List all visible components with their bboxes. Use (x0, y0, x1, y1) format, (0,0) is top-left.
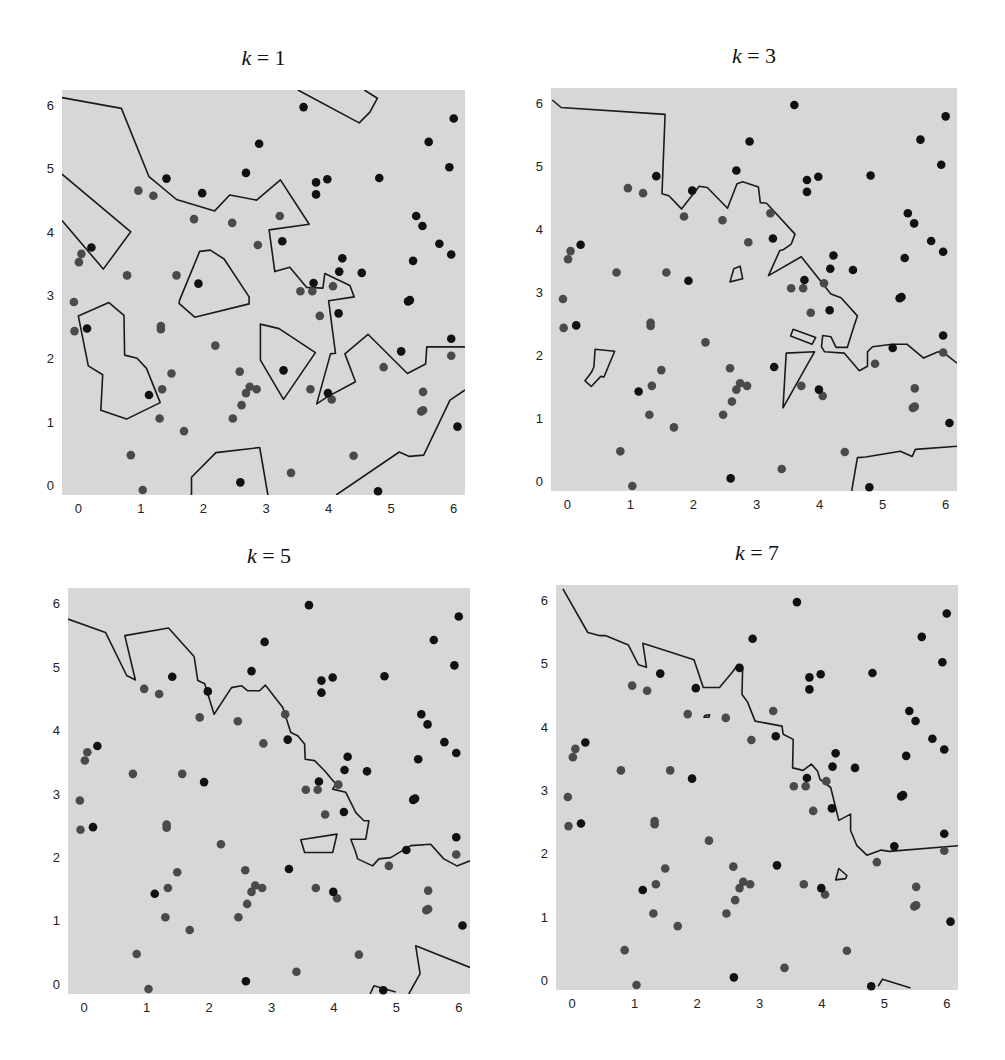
x-tick-label: 4 (325, 501, 332, 516)
point-class-b (241, 866, 250, 875)
point-class-a (576, 240, 585, 249)
point-class-b (801, 782, 810, 791)
point-class-b (559, 295, 568, 304)
point-class-a (317, 676, 326, 685)
point-class-b (385, 862, 394, 871)
point-class-b (912, 883, 921, 892)
y-tick-label: 3 (536, 285, 543, 300)
x-tick-label: 5 (388, 501, 395, 516)
point-class-b (670, 423, 679, 432)
point-class-b (912, 901, 921, 910)
point-class-a (868, 669, 877, 678)
point-class-b (646, 322, 655, 331)
point-class-a (688, 186, 697, 195)
point-class-b (172, 271, 181, 280)
point-class-b (424, 886, 433, 895)
point-class-b (173, 868, 182, 877)
point-class-b (871, 360, 880, 369)
point-class-a (312, 178, 321, 187)
y-tick-label: 4 (47, 225, 54, 240)
point-class-a (905, 707, 914, 716)
point-class-b (939, 348, 948, 357)
point-class-b (769, 707, 778, 716)
point-class-a (815, 385, 824, 394)
point-class-a (900, 254, 909, 263)
point-class-b (746, 880, 755, 889)
x-tick-label: 0 (81, 1000, 88, 1015)
point-class-b (639, 189, 648, 198)
x-tick-label: 0 (75, 501, 82, 516)
point-class-a (168, 673, 177, 682)
x-tick-label: 1 (631, 996, 638, 1011)
plot-area: 01234560123456 (28, 543, 510, 1029)
point-class-a (397, 347, 406, 356)
x-tick-label: 6 (943, 996, 950, 1011)
point-class-a (329, 888, 338, 897)
point-class-a (826, 264, 835, 273)
point-class-b (76, 825, 85, 834)
point-class-b (195, 713, 204, 722)
point-class-b (157, 325, 166, 334)
point-class-b (258, 884, 267, 893)
point-class-b (777, 465, 786, 474)
point-class-b (237, 401, 246, 410)
point-class-b (259, 739, 268, 748)
point-class-a (340, 808, 349, 817)
point-class-b (718, 216, 727, 225)
y-tick-label: 6 (53, 596, 60, 611)
point-class-a (440, 738, 449, 747)
point-class-a (380, 672, 389, 681)
point-class-b (308, 287, 317, 296)
point-class-a (315, 777, 324, 786)
point-class-b (287, 469, 296, 478)
point-class-b (355, 950, 364, 959)
point-class-a (93, 742, 102, 751)
point-class-a (411, 794, 420, 803)
point-class-a (363, 767, 372, 776)
x-tick-label: 3 (756, 996, 763, 1011)
y-tick-label: 4 (541, 720, 548, 735)
point-class-a (406, 296, 415, 305)
point-class-a (770, 363, 779, 372)
point-class-b (76, 796, 85, 805)
point-class-b (185, 926, 194, 935)
x-tick-label: 5 (881, 996, 888, 1011)
point-class-a (938, 658, 947, 667)
point-class-a (656, 669, 665, 678)
x-tick-label: 2 (200, 501, 207, 516)
point-class-a (828, 762, 837, 771)
point-class-b (680, 212, 689, 221)
point-class-a (916, 135, 925, 144)
point-class-a (890, 842, 899, 851)
point-class-a (423, 720, 432, 729)
x-tick-label: 4 (816, 497, 823, 512)
point-class-b (649, 909, 658, 918)
point-class-b (673, 922, 682, 931)
point-class-b (652, 880, 661, 889)
x-tick-label: 0 (569, 996, 576, 1011)
point-class-b (910, 402, 919, 411)
point-class-b (75, 258, 84, 267)
point-class-b (666, 766, 675, 775)
point-class-b (247, 888, 256, 897)
point-class-a (162, 174, 171, 183)
x-tick-label: 5 (393, 1000, 400, 1015)
x-tick-label: 0 (564, 497, 571, 512)
point-class-b (81, 756, 90, 765)
point-class-a (194, 279, 203, 288)
point-class-a (87, 243, 96, 252)
point-class-b (732, 385, 741, 394)
point-class-b (721, 714, 730, 723)
point-class-b (329, 282, 338, 291)
point-class-a (805, 673, 814, 682)
point-class-b (149, 191, 158, 200)
point-class-a (748, 634, 757, 643)
point-class-b (161, 913, 170, 922)
y-tick-label: 0 (541, 973, 548, 988)
x-tick-label: 1 (137, 501, 144, 516)
point-class-a (634, 387, 643, 396)
point-class-a (814, 172, 823, 181)
point-class-a (414, 755, 423, 764)
subplot-k1: k = 1 01234560123456 (22, 45, 505, 530)
point-class-b (722, 909, 731, 918)
